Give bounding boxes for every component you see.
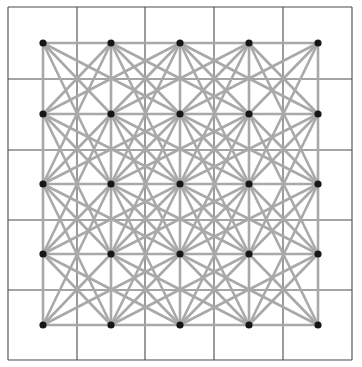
graph-node xyxy=(314,321,321,328)
graph-node xyxy=(245,180,252,187)
graph-node xyxy=(107,321,114,328)
graph-node xyxy=(314,180,321,187)
graph-node xyxy=(39,39,46,46)
graph-node xyxy=(107,110,114,117)
graph-node xyxy=(107,180,114,187)
graph-node xyxy=(176,180,183,187)
graph-node xyxy=(39,321,46,328)
graph-node xyxy=(245,110,252,117)
graph-node xyxy=(107,250,114,257)
graph-node xyxy=(176,321,183,328)
graph-node xyxy=(245,250,252,257)
graph-node xyxy=(245,321,252,328)
graph-node xyxy=(314,110,321,117)
graph-node xyxy=(176,39,183,46)
grid-graph-diagram xyxy=(0,0,362,367)
graph-node xyxy=(176,110,183,117)
graph-node xyxy=(314,39,321,46)
graph-node xyxy=(176,250,183,257)
graph-node xyxy=(39,110,46,117)
graph-node xyxy=(245,39,252,46)
graph-node xyxy=(107,39,114,46)
graph-node xyxy=(314,250,321,257)
graph-node xyxy=(39,180,46,187)
graph-node xyxy=(39,250,46,257)
